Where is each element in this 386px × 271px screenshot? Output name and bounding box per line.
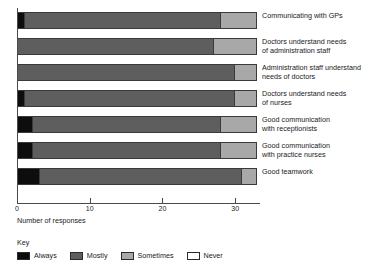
- x-axis-line: [17, 203, 260, 204]
- bar-segment-always: [18, 169, 40, 184]
- category-label: Good communication with receptionists: [262, 115, 386, 133]
- bar-segment-mostly: [24, 91, 235, 106]
- x-axis-tick: [162, 198, 163, 203]
- legend-item: Sometimes: [121, 251, 174, 260]
- bar-segment-mostly: [18, 65, 235, 80]
- bar-segment-always: [18, 117, 33, 132]
- bar-row: [17, 64, 257, 81]
- x-axis-tick: [235, 198, 236, 203]
- category-label: Communicating with GPs: [262, 11, 386, 20]
- legend-label: Never: [204, 251, 223, 260]
- category-label: Good teamwork: [262, 167, 386, 176]
- bar-segment-sometimes: [220, 13, 256, 28]
- x-axis-tick: [17, 198, 18, 203]
- legend-label: Mostly: [87, 251, 108, 260]
- legend-swatch-always: [17, 252, 30, 260]
- category-label: Doctors understand needs of nurses: [262, 89, 386, 107]
- bar-segment-always: [18, 143, 33, 158]
- x-axis-title: Number of responses: [17, 216, 86, 225]
- category-label: Administration staff understand needs of…: [262, 63, 386, 81]
- bar-segment-sometimes: [220, 143, 256, 158]
- legend-label: Sometimes: [138, 251, 174, 260]
- bar-segment-mostly: [24, 13, 220, 28]
- bar-segment-sometimes: [234, 91, 256, 106]
- bar-segment-sometimes: [234, 65, 256, 80]
- bar-segment-mostly: [39, 169, 243, 184]
- x-axis-tick-label: 0: [15, 205, 19, 212]
- legend-item: Never: [187, 251, 223, 260]
- bar-segment-mostly: [32, 143, 221, 158]
- bar-segment-sometimes: [213, 39, 256, 54]
- legend: AlwaysMostlySometimesNever: [17, 251, 236, 260]
- bar-row: [17, 12, 257, 29]
- bar-row: [17, 38, 257, 55]
- bar-row: [17, 142, 257, 159]
- bar-row: [17, 168, 257, 185]
- legend-label: Always: [34, 251, 57, 260]
- category-label: Good communication with practice nurses: [262, 141, 386, 159]
- x-axis-tick-label: 20: [159, 205, 167, 212]
- stacked-bar-chart: Communicating with GPsDoctors understand…: [0, 0, 386, 271]
- x-axis-tick-label: 30: [231, 205, 239, 212]
- bar-segment-sometimes: [241, 169, 256, 184]
- x-axis-tick-label: 10: [86, 205, 94, 212]
- y-axis-line: [17, 8, 18, 203]
- bar-segment-sometimes: [220, 117, 256, 132]
- legend-swatch-mostly: [70, 252, 83, 260]
- legend-item: Always: [17, 251, 57, 260]
- category-label: Doctors understand needs of administrati…: [262, 37, 386, 55]
- legend-swatch-never: [187, 252, 200, 260]
- bar-row: [17, 116, 257, 133]
- key-title: Key: [17, 238, 29, 247]
- plot-area: [17, 8, 257, 200]
- bar-segment-mostly: [18, 39, 214, 54]
- legend-swatch-sometimes: [121, 252, 134, 260]
- bar-row: [17, 90, 257, 107]
- legend-item: Mostly: [70, 251, 108, 260]
- x-axis-tick: [90, 198, 91, 203]
- bar-segment-mostly: [32, 117, 221, 132]
